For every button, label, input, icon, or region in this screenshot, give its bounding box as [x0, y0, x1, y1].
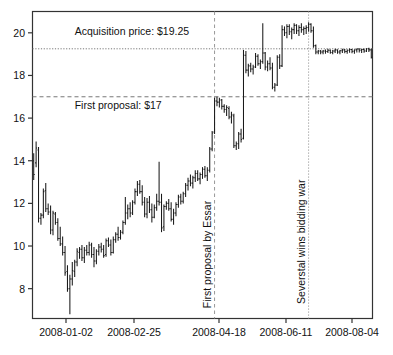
- y-tick-label: 16: [13, 112, 25, 124]
- x-tick-label: 2008-06-11: [260, 326, 313, 338]
- y-tick-label: 14: [13, 155, 25, 167]
- x-tick-label: 2008-08-04: [325, 326, 379, 338]
- chart-figure: 8101214161820 2008-01-022008-02-252008-0…: [0, 0, 393, 355]
- chart-annotation: First proposal: $17: [75, 99, 162, 111]
- y-tick-label: 10: [13, 240, 25, 252]
- y-tick-label: 20: [13, 27, 25, 39]
- chart-annotation: Severstal wins bidding war: [295, 179, 307, 304]
- chart-annotation: First proposal by Essar: [201, 200, 213, 308]
- y-tick-label: 8: [19, 283, 25, 295]
- y-tick-label: 18: [13, 69, 25, 81]
- x-tick-label: 2008-02-25: [107, 326, 161, 338]
- ohlc-price-chart: 8101214161820 2008-01-022008-02-252008-0…: [0, 0, 393, 355]
- x-tick-label: 2008-04-18: [192, 326, 246, 338]
- x-tick-label: 2008-01-02: [39, 326, 93, 338]
- chart-annotation: Acquisition price: $19.25: [75, 25, 190, 37]
- figure-background: [0, 0, 393, 355]
- y-tick-label: 12: [13, 197, 25, 209]
